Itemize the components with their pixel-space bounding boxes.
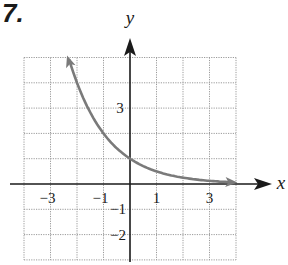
x-axis-label: x: [276, 172, 286, 193]
y-tick-label: −2: [110, 227, 126, 243]
tick-labels: xy−3−1133−1−2: [40, 7, 286, 243]
y-tick-label: 3: [116, 100, 124, 116]
curve-series: [66, 55, 237, 187]
y-axis-label: y: [124, 7, 135, 28]
y-tick-label: −1: [110, 201, 126, 217]
x-tick-label: 1: [153, 190, 161, 206]
x-tick-label: 3: [206, 190, 214, 206]
curve-line: [69, 59, 229, 182]
axes: [10, 38, 272, 262]
x-tick-label: −1: [93, 190, 109, 206]
exponential-graph: xy−3−1133−1−2: [0, 0, 288, 265]
x-tick-label: −3: [40, 190, 56, 206]
